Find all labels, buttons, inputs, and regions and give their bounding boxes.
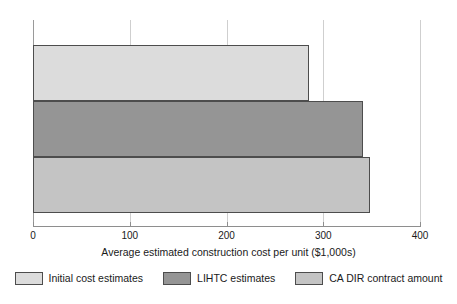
x-tick-label-200: 200 — [218, 230, 235, 242]
legend-swatch-icon-0 — [15, 272, 43, 285]
gridline-400 — [420, 20, 421, 226]
bar-0 — [33, 45, 309, 101]
x-tick-label-400: 400 — [412, 230, 429, 242]
x-tick-mark-0 — [33, 222, 34, 227]
bar-chart: 0100200300400 Average estimated construc… — [0, 0, 457, 304]
x-tick-mark-100 — [130, 222, 131, 227]
x-tick-mark-300 — [323, 222, 324, 227]
legend-entry-0[interactable]: Initial cost estimates — [15, 272, 144, 285]
legend-label-1: LIHTC estimates — [197, 272, 275, 285]
bar-1 — [33, 101, 363, 157]
legend-swatch-icon-2 — [295, 272, 323, 285]
legend-label-2: CA DIR contract amount — [329, 272, 442, 285]
chart-legend: Initial cost estimatesLIHTC estimatesCA … — [0, 272, 457, 285]
x-tick-mark-400 — [420, 222, 421, 227]
legend-label-0: Initial cost estimates — [49, 272, 144, 285]
legend-entry-1[interactable]: LIHTC estimates — [163, 272, 275, 285]
x-axis-title: Average estimated construction cost per … — [0, 246, 457, 259]
plot-area — [33, 20, 420, 226]
x-tick-label-0: 0 — [30, 230, 36, 242]
x-tick-label-300: 300 — [315, 230, 332, 242]
legend-entry-2[interactable]: CA DIR contract amount — [295, 272, 442, 285]
bar-2 — [33, 157, 370, 213]
legend-swatch-icon-1 — [163, 272, 191, 285]
bars — [33, 20, 420, 226]
x-tick-label-100: 100 — [121, 230, 138, 242]
x-tick-mark-200 — [227, 222, 228, 227]
